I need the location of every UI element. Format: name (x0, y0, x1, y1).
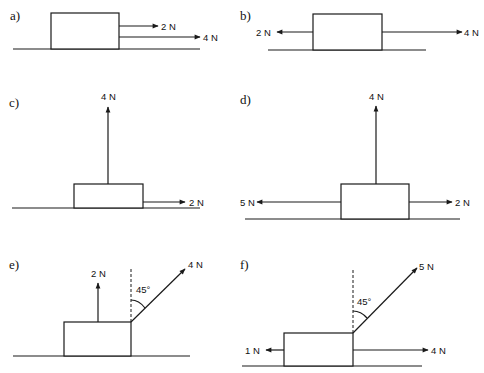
force-label: 4 N (464, 27, 479, 38)
force-label: 1 N (245, 345, 260, 356)
force-label: 4 N (101, 91, 116, 102)
block (74, 184, 143, 208)
block (313, 14, 382, 50)
force-label: 2 N (161, 21, 176, 32)
force-arrow-diagonal (131, 269, 185, 322)
force-label: 4 N (369, 91, 384, 102)
force-label: 5 N (240, 197, 255, 208)
angle-label: 45° (357, 296, 372, 307)
panel-label: b) (240, 8, 251, 23)
panel-label: f) (240, 257, 249, 272)
panel-label: a) (10, 8, 20, 23)
force-label: 2 N (91, 268, 106, 279)
panel-e: e) 2 N 4 N 45° (9, 257, 203, 356)
panel-c: c) 4 N 2 N (9, 91, 204, 208)
panel-label: c) (9, 95, 19, 110)
panel-d: d) 4 N 5 N 2 N (240, 91, 470, 219)
panel-a: a) 2 N 4 N (10, 8, 218, 49)
force-label: 5 N (419, 261, 434, 272)
force-label: 2 N (256, 27, 271, 38)
block (284, 333, 353, 366)
force-label: 4 N (203, 32, 218, 43)
angle-arc (353, 311, 367, 318)
force-label: 2 N (189, 197, 204, 208)
angle-arc (131, 300, 145, 308)
force-label: 4 N (188, 259, 203, 270)
block (64, 322, 131, 356)
force-diagrams-figure: a) 2 N 4 N b) 2 N 4 N c) 4 N 2 N d) 4 N … (0, 0, 484, 373)
panel-label: d) (240, 92, 251, 107)
force-label: 2 N (455, 197, 470, 208)
panel-label: e) (9, 257, 19, 272)
panel-b: b) 2 N 4 N (240, 8, 479, 50)
force-label: 4 N (431, 345, 446, 356)
panel-f: f) 5 N 45° 1 N 4 N (240, 257, 446, 366)
angle-label: 45° (136, 284, 151, 295)
block (51, 13, 119, 49)
block (341, 184, 409, 219)
